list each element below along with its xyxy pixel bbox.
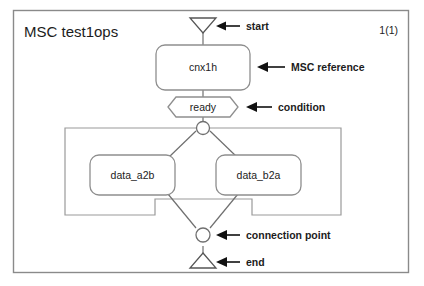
connection-point-bottom[interactable] (196, 228, 210, 242)
connection-point-top[interactable] (197, 122, 210, 135)
msc-diagram-canvas: MSC test1ops 1(1) cnx1h ready (0, 0, 424, 286)
msc-reference-label: cnx1h (189, 61, 217, 73)
data-a2b-label: data_a2b (111, 169, 155, 181)
data-b2a-label: data_b2a (237, 169, 281, 181)
annotation-end-label: end (246, 256, 265, 268)
annotation-msc-reference-label: MSC reference (291, 61, 365, 73)
msc-diagram-svg: MSC test1ops 1(1) cnx1h ready (0, 0, 424, 286)
annotation-connection-point-label: connection point (246, 229, 331, 241)
page-indicator: 1(1) (379, 24, 398, 36)
annotation-start-label: start (246, 20, 269, 32)
condition-label: ready (190, 101, 217, 113)
page-title: MSC test1ops (24, 23, 118, 40)
annotation-condition-label: condition (278, 101, 325, 113)
